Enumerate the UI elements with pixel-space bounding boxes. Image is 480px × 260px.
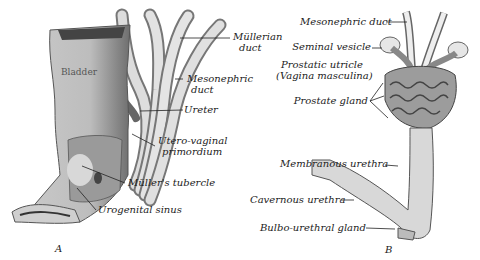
- label-urogenital-sinus: Urogenital sinus: [98, 204, 182, 215]
- label-prostatic-utricle: Prostatic utricle(Vagina masculina): [276, 59, 368, 81]
- label-text: Utero-vaginal: [158, 135, 227, 146]
- label-text: Müllerian: [233, 31, 282, 42]
- label-text-2: duct: [187, 84, 213, 95]
- label-mesonephric-duct: Mesonephricduct: [187, 73, 253, 95]
- label-text-2: duct: [233, 42, 261, 53]
- label-mullerian-duct: Müllerianduct: [233, 31, 282, 53]
- panel-label-a: A: [55, 243, 62, 254]
- label-text-2: (Vagina masculina): [276, 70, 373, 81]
- label-text: Mesonephric: [187, 73, 253, 84]
- label-ureter: Ureter: [184, 104, 218, 115]
- label-text-2: primordium: [158, 146, 222, 157]
- label-seminal-vesicle: Seminal vesicle: [290, 41, 371, 52]
- label-bulbo-urethral-gland: Bulbo-urethral gland: [260, 222, 365, 233]
- label-text: Prostatic utricle: [281, 59, 363, 70]
- label-membranous-urethra: Membranous urethra: [280, 158, 384, 169]
- bladder-label: Bladder: [61, 67, 97, 78]
- label-prostate-gland: Prostate gland: [290, 95, 368, 106]
- label-utero-vaginal-primordium: Utero-vaginalprimordium: [158, 135, 227, 157]
- label-mullers-tubercle: Müller's tubercle: [128, 177, 215, 188]
- panel-label-b: B: [385, 244, 392, 255]
- label-cavernous-urethra: Cavernous urethra: [250, 194, 340, 205]
- label-mesonephric-duct-b: Mesonephric duct: [300, 16, 385, 27]
